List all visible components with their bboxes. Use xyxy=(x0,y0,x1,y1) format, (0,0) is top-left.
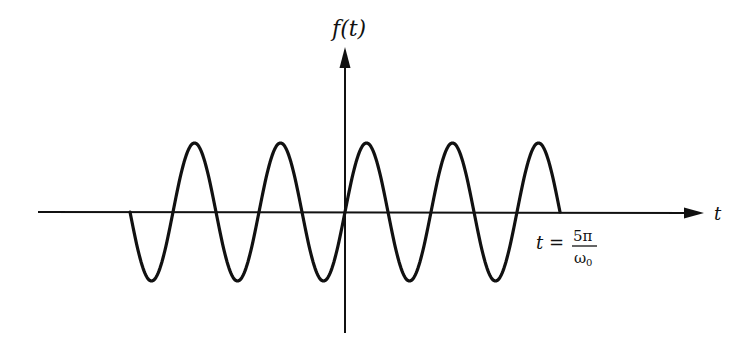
end-time-annotation: t = 5π ω 0 xyxy=(536,227,597,268)
x-axis xyxy=(38,212,692,213)
y-axis-label: f(t) xyxy=(330,16,366,41)
y-axis-arrow-icon xyxy=(340,47,351,68)
annotation-lhs: t xyxy=(536,232,544,253)
sinusoid-pulse-diagram: f(t) t t = 5π ω 0 xyxy=(0,0,750,343)
annotation-equals: = xyxy=(549,232,564,253)
annotation-denominator-subscript: 0 xyxy=(586,257,592,268)
x-axis-arrow-icon xyxy=(684,208,704,219)
annotation-denominator: ω xyxy=(574,249,586,267)
x-axis-label: t xyxy=(714,203,722,224)
annotation-numerator: 5π xyxy=(573,227,593,245)
